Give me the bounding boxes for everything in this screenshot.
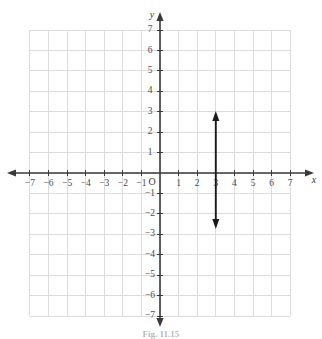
graph-line-top-arrowhead xyxy=(212,111,219,121)
x-axis-label: x xyxy=(311,174,317,185)
y-axis-label: y xyxy=(149,9,155,20)
y-tick-label: 6 xyxy=(148,45,153,55)
y-tick-label: 3 xyxy=(148,106,153,116)
origin-label: O xyxy=(148,176,155,187)
graph-line-x-equals-3 xyxy=(212,111,219,229)
x-axis-left-arrowhead xyxy=(7,169,16,176)
y-tick-label: −1 xyxy=(145,188,155,198)
y-tick-label: 1 xyxy=(148,147,153,157)
y-tick-label: 4 xyxy=(148,85,153,95)
x-tick-label: −4 xyxy=(81,178,91,188)
graph-figure: −7 −6 −5 −4 −3 −2 −1 1 2 3 4 5 6 7 7 6 5… xyxy=(0,0,322,339)
x-tick-label: 5 xyxy=(251,178,256,188)
x-tick-label: −6 xyxy=(43,178,53,188)
x-tick-label: −7 xyxy=(25,178,35,188)
y-tick-label: 7 xyxy=(148,24,153,34)
x-tick-labels: −7 −6 −5 −4 −3 −2 −1 1 2 3 4 5 6 7 xyxy=(25,178,293,188)
coordinate-plane: −7 −6 −5 −4 −3 −2 −1 1 2 3 4 5 6 7 7 6 5… xyxy=(0,0,322,339)
y-tick-label: −4 xyxy=(145,249,155,259)
x-tick-label: 6 xyxy=(269,178,274,188)
y-axis-bottom-arrowhead xyxy=(156,318,163,327)
graph-line-bottom-arrowhead xyxy=(212,219,219,229)
y-tick-labels: 7 6 5 4 3 2 1 −1 −2 −3 −4 −5 −6 −7 xyxy=(145,24,155,320)
x-tick-label: 1 xyxy=(176,178,181,188)
y-tick-label: −7 xyxy=(145,310,155,320)
y-tick-label: −3 xyxy=(145,228,155,238)
figure-caption: Fig. 11.15 xyxy=(0,329,322,339)
y-tick-label: 5 xyxy=(148,65,153,75)
x-tick-label: 4 xyxy=(232,178,237,188)
y-axis-top-arrowhead xyxy=(156,12,163,21)
x-tick-label: −5 xyxy=(62,178,72,188)
x-tick-label: −3 xyxy=(99,178,109,188)
x-tick-label: 7 xyxy=(288,178,293,188)
y-tick-label: −6 xyxy=(145,290,155,300)
y-tick-label: −2 xyxy=(145,208,155,218)
y-tick-label: 2 xyxy=(148,126,153,136)
y-axis xyxy=(156,12,163,327)
y-tick-label: −5 xyxy=(145,269,155,279)
x-tick-label: −2 xyxy=(118,178,128,188)
x-tick-label: 2 xyxy=(195,178,200,188)
